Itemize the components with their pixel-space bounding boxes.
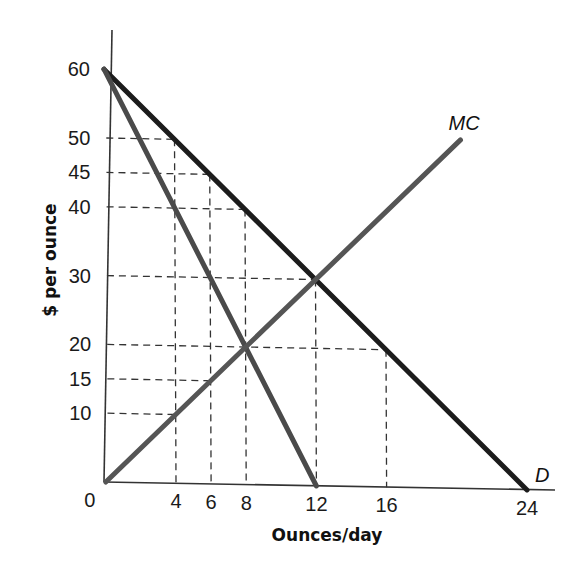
x-tick-12: 12: [305, 493, 327, 515]
mr-curve: [104, 69, 316, 486]
x-tick-6: 6: [206, 491, 217, 513]
x-tick-0: 0: [84, 489, 95, 511]
dashed-guide-y-15: [107, 379, 210, 381]
y-tick-10: 10: [69, 402, 91, 424]
dashed-guide-y-10: [108, 413, 176, 414]
x-axis: [104, 482, 555, 490]
x-tick-24: 24: [516, 497, 538, 519]
x-tick-16: 16: [375, 494, 397, 516]
mc-label: MC: [449, 112, 481, 134]
d-label: D: [535, 464, 549, 486]
dashed-guides: [106, 138, 386, 487]
dashed-guide-x-4: [175, 139, 177, 483]
y-tick-60: 60: [68, 58, 90, 80]
x-tick-labels: 0468121624: [84, 489, 538, 519]
y-tick-45: 45: [68, 161, 90, 183]
y-tick-labels: 6050454030201510: [68, 58, 92, 424]
mc-curve: [106, 140, 461, 482]
y-tick-50: 50: [68, 127, 90, 149]
chart: 6050454030201510 0468121624 MCD Ounces/d…: [0, 0, 578, 576]
x-tick-4: 4: [170, 490, 181, 512]
y-axis: [104, 30, 112, 482]
y-tick-40: 40: [68, 196, 90, 218]
dashed-guide-x-16: [386, 350, 387, 488]
dashed-guide-x-6: [210, 174, 211, 484]
x-axis-title: Ounces/day: [272, 525, 383, 545]
dashed-guide-x-12: [316, 280, 317, 486]
y-tick-30: 30: [69, 265, 91, 287]
y-axis-title: $ per ounce: [40, 203, 60, 316]
y-tick-20: 20: [69, 333, 91, 355]
y-tick-15: 15: [69, 368, 91, 390]
x-tick-8: 8: [241, 492, 252, 514]
